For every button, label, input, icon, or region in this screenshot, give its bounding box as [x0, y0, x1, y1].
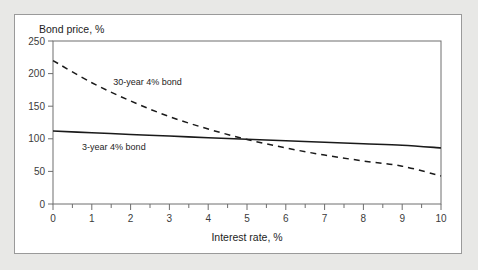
x-tick-label: 8: [361, 213, 367, 224]
y-tick-label: 250: [28, 36, 45, 47]
series-group: [53, 61, 441, 176]
plot-frame: [53, 41, 441, 204]
series-line: [53, 61, 441, 176]
x-tick-label: 2: [128, 213, 134, 224]
x-tick-label: 4: [205, 213, 211, 224]
y-axis-title: Bond price, %: [39, 23, 104, 35]
x-tick-label: 1: [89, 213, 95, 224]
x-tick-label: 9: [399, 213, 405, 224]
x-tick-label: 7: [322, 213, 328, 224]
x-tick-label: 3: [167, 213, 173, 224]
series-label: 30-year 4% bond: [113, 77, 182, 87]
x-tick-label: 10: [435, 213, 447, 224]
y-tick-label: 150: [28, 101, 45, 112]
y-tick-label: 100: [28, 133, 45, 144]
x-tick-label: 6: [283, 213, 289, 224]
x-tick-label: 5: [244, 213, 250, 224]
bond-price-chart: Bond price, % 050100150200250 0123456789…: [15, 15, 461, 253]
y-tick-label: 50: [34, 166, 46, 177]
y-axis-ticks: 050100150200250: [28, 36, 53, 210]
y-tick-label: 200: [28, 68, 45, 79]
figure-panel: Bond price, % 050100150200250 0123456789…: [14, 14, 462, 254]
y-tick-label: 0: [39, 199, 45, 210]
x-tick-label: 0: [50, 213, 56, 224]
series-annotations: 30-year 4% bond3-year 4% bond: [82, 77, 182, 152]
series-label: 3-year 4% bond: [82, 142, 146, 152]
x-axis-ticks: 012345678910: [50, 204, 447, 224]
x-axis-title: Interest rate, %: [211, 231, 282, 243]
